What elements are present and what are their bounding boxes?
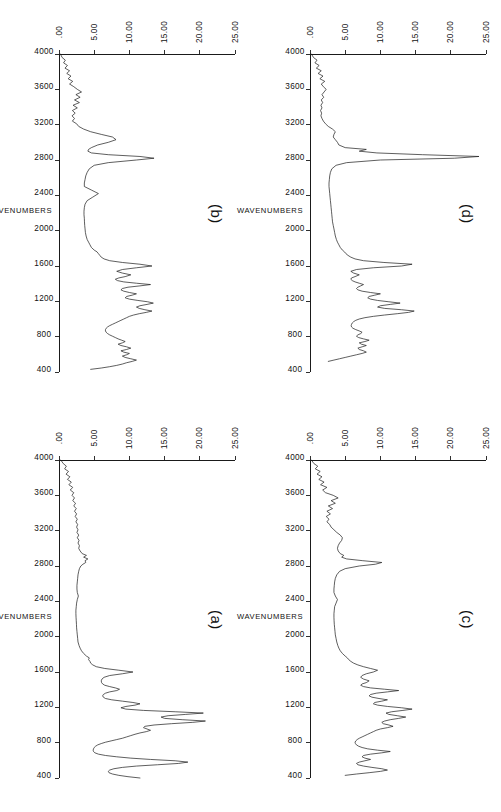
panel-a: 40003600320028002400200016001200800400WA…	[0, 406, 250, 812]
panel-c-stage: 40003600320028002400200016001200800400WA…	[258, 414, 494, 804]
x-tick-label: 2000	[285, 630, 305, 639]
x-tick-label: 4000	[34, 47, 54, 56]
panel-a-stage: 40003600320028002400200016001200800400WA…	[7, 414, 243, 804]
y-tick-label: 5.00	[90, 429, 99, 446]
x-tick-label: 2400	[34, 594, 54, 603]
x-axis-title: WAVENUMBERS	[237, 612, 303, 621]
y-tick-label: 5.00	[341, 429, 350, 446]
y-tick-label: 5.00	[341, 23, 350, 40]
x-tick-label: 1600	[34, 665, 54, 674]
y-tick-label: 10.00	[125, 427, 134, 449]
x-tick-label: 3200	[285, 524, 305, 533]
x-tick-label: 2800	[34, 559, 54, 568]
y-tick-label: 10.00	[125, 21, 134, 43]
x-tick-label: 400	[37, 771, 52, 780]
x-tick-label: 2000	[34, 630, 54, 639]
x-axis-title: WAVENUMBERS	[237, 206, 303, 215]
panel-d: 40003600320028002400200016001200800400WA…	[251, 0, 501, 406]
x-tick-label: 400	[37, 365, 52, 374]
x-tick-label: 400	[288, 365, 303, 374]
x-tick-label: 3200	[285, 118, 305, 127]
x-tick-label: 1200	[34, 700, 54, 709]
x-tick-label: 800	[37, 330, 52, 339]
x-tick-label: 2400	[285, 594, 305, 603]
x-tick-label: 2800	[285, 153, 305, 162]
y-tick-label: 10.00	[376, 427, 385, 449]
x-tick-label: 4000	[34, 453, 54, 462]
panel-c: 40003600320028002400200016001200800400WA…	[251, 406, 501, 812]
x-tick-label: 2000	[285, 224, 305, 233]
y-tick-label: 10.00	[376, 21, 385, 43]
x-tick-label: 2800	[285, 559, 305, 568]
panel-b-label: (b)	[208, 204, 225, 224]
y-tick-label: 20.00	[195, 427, 204, 449]
y-tick-label: 20.00	[446, 427, 455, 449]
panel-d-label: (d)	[459, 204, 476, 224]
x-tick-label: 2400	[34, 188, 54, 197]
x-tick-label: 1200	[285, 700, 305, 709]
x-tick-label: 1200	[34, 294, 54, 303]
y-tick-label: 20.00	[195, 21, 204, 43]
x-tick-label: 1600	[34, 259, 54, 268]
x-tick-label: 1600	[285, 665, 305, 674]
x-axis-title: WAVENUMBERS	[0, 612, 52, 621]
y-tick-label: 5.00	[90, 23, 99, 40]
x-tick-label: 4000	[285, 453, 305, 462]
y-tick-label: 20.00	[446, 21, 455, 43]
x-axis-title: WAVENUMBERS	[0, 206, 52, 215]
y-tick-label: 25.00	[482, 21, 491, 43]
y-tick-label: .00	[55, 432, 64, 444]
x-tick-label: 800	[288, 330, 303, 339]
x-tick-label: 3600	[285, 82, 305, 91]
y-tick-label: .00	[55, 26, 64, 38]
x-tick-label: 3600	[34, 488, 54, 497]
y-tick-label: 25.00	[231, 21, 240, 43]
x-tick-label: 3200	[34, 118, 54, 127]
x-tick-label: 1200	[285, 294, 305, 303]
figure-root: 40003600320028002400200016001200800400WA…	[0, 0, 501, 812]
x-tick-label: 800	[288, 736, 303, 745]
x-tick-label: 1600	[285, 259, 305, 268]
y-tick-label: .00	[306, 432, 315, 444]
x-tick-label: 400	[288, 771, 303, 780]
y-tick-label: 15.00	[411, 427, 420, 449]
x-tick-label: 800	[37, 736, 52, 745]
y-tick-label: 25.00	[482, 427, 491, 449]
y-tick-label: 25.00	[231, 427, 240, 449]
y-tick-label: .00	[306, 26, 315, 38]
panel-a-label: (a)	[208, 610, 225, 630]
x-tick-label: 3600	[285, 488, 305, 497]
y-tick-label: 15.00	[411, 21, 420, 43]
panel-b-stage: 40003600320028002400200016001200800400WA…	[7, 8, 243, 398]
y-tick-label: 15.00	[160, 427, 169, 449]
x-tick-label: 3600	[34, 82, 54, 91]
panel-d-stage: 40003600320028002400200016001200800400WA…	[258, 8, 494, 398]
x-tick-label: 3200	[34, 524, 54, 533]
y-tick-label: 15.00	[160, 21, 169, 43]
panel-c-label: (c)	[459, 610, 476, 629]
panel-b: 40003600320028002400200016001200800400WA…	[0, 0, 250, 406]
x-tick-label: 2400	[285, 188, 305, 197]
x-tick-label: 4000	[285, 47, 305, 56]
x-tick-label: 2000	[34, 224, 54, 233]
x-tick-label: 2800	[34, 153, 54, 162]
